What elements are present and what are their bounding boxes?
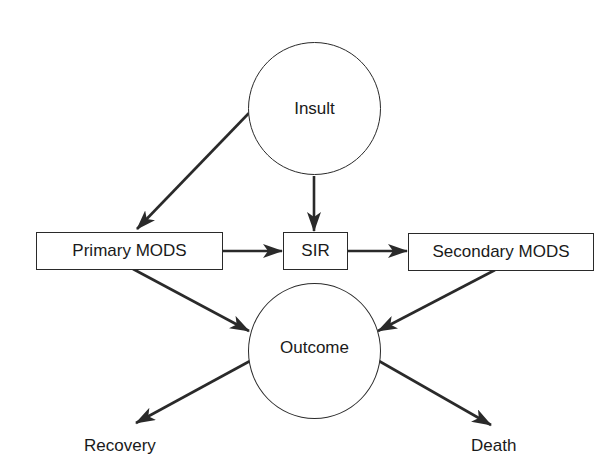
node-insult-label: Insult: [294, 99, 335, 119]
node-secondary-mods-label: Secondary MODS: [433, 242, 570, 262]
node-sir-label: SIR: [301, 241, 329, 261]
mods-flow-diagram: Insult Primary MODS SIR Secondary MODS O…: [0, 0, 612, 475]
node-secondary-mods: Secondary MODS: [408, 233, 594, 271]
edge-outcome-to-recovery: [136, 361, 250, 423]
node-death: Death: [471, 436, 516, 456]
node-sir: SIR: [283, 232, 348, 270]
node-outcome-label: Outcome: [280, 338, 349, 358]
edge-primary-mods-to-outcome: [133, 269, 249, 331]
node-insult: Insult: [248, 42, 381, 175]
edge-secondary-mods-to-outcome: [378, 270, 495, 331]
node-primary-mods-label: Primary MODS: [72, 241, 186, 261]
node-outcome: Outcome: [248, 283, 381, 419]
edge-outcome-to-death: [379, 361, 491, 425]
node-recovery: Recovery: [84, 436, 156, 456]
node-primary-mods: Primary MODS: [36, 232, 223, 270]
edge-insult-to-primary-mods: [137, 113, 249, 229]
